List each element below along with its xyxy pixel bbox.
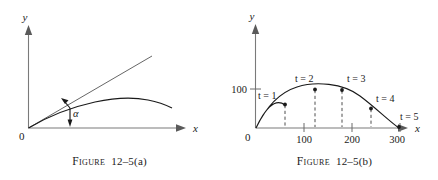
y-axis-arrowhead-b <box>252 24 259 34</box>
data-point-t3-b <box>340 88 344 92</box>
figure-page: y x 0 α Figure 12–5(a) <box>0 0 438 180</box>
projectile-path-b <box>256 84 399 128</box>
data-point-t4-b <box>369 107 373 111</box>
figure-caption-b: Figure 12–5(b) <box>225 155 438 167</box>
data-point-t1-b <box>283 103 287 107</box>
data-point-t2-b <box>313 88 317 92</box>
figure-caption-b-word: Figure <box>297 155 330 167</box>
x-axis-arrowhead-a <box>176 124 186 131</box>
figure-caption-a-word: Figure <box>72 155 105 167</box>
y-axis-label-b: y <box>249 10 255 22</box>
point-label-t5-b: t = 5 <box>400 111 418 122</box>
figure-12-5b-panel: y x 0 100 100 200 300 <box>219 0 438 180</box>
x-axis-label-a: x <box>192 122 198 134</box>
point-label-t4-b: t = 4 <box>376 93 394 104</box>
x-tick-label-200-b: 200 <box>344 134 360 145</box>
origin-label-b: 0 <box>245 131 251 143</box>
y-tick-label-100-b: 100 <box>231 84 247 95</box>
figure-caption-a-number: 12–5(a) <box>111 155 147 167</box>
point-label-t2-b: t = 2 <box>295 73 313 84</box>
y-axis-label-a: y <box>22 11 28 23</box>
y-axis-arrowhead-a <box>25 25 32 35</box>
figure-12-5a-panel: y x 0 α Figure 12–5(a) <box>0 0 219 180</box>
figure-caption-a: Figure 12–5(a) <box>0 155 219 167</box>
alpha-angle-label-a: α <box>73 108 79 119</box>
x-tick-label-100-b: 100 <box>296 134 312 145</box>
x-axis-label-b: x <box>414 122 420 134</box>
tangent-line-a <box>29 56 153 128</box>
trajectory-curve-a <box>29 98 173 128</box>
figure-12-5a-graph: y x 0 α <box>0 0 219 155</box>
point-label-t1-b: t = 1 <box>258 90 276 101</box>
figure-caption-b-number: 12–5(b) <box>336 155 372 167</box>
figure-12-5b-graph: y x 0 100 100 200 300 <box>219 0 438 155</box>
x-tick-label-300-b: 300 <box>389 134 405 145</box>
data-point-t5-b <box>397 125 401 129</box>
alpha-arrow-lower-head-a <box>68 120 73 128</box>
origin-label-a: 0 <box>19 130 25 142</box>
alpha-arrow-upper-head-a <box>61 98 69 104</box>
point-label-t3-b: t = 3 <box>347 73 365 84</box>
